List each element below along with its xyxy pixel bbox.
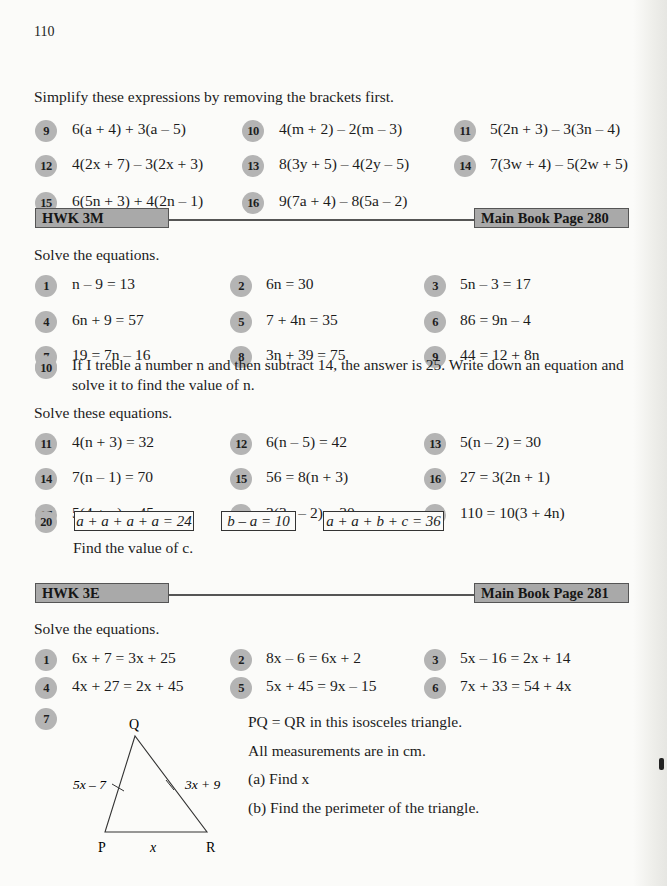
equation: 6n + 9 = 57 xyxy=(72,311,144,329)
question-number-badge: 3 xyxy=(424,649,446,671)
part-b: (b) Find the perimeter of the triangle. xyxy=(248,798,479,818)
question-number-badge: 5 xyxy=(230,311,252,333)
question-number-badge: 11 xyxy=(454,120,476,142)
triangle-description: PQ = QR in this isosceles triangle. xyxy=(248,712,462,732)
question-number-badge: 12 xyxy=(230,433,252,455)
section-title-hwk3m: HWK 3M xyxy=(35,208,169,228)
equation-box-2: b – a = 10 xyxy=(221,511,296,531)
solve-instruction: Solve the equations. xyxy=(34,246,159,264)
ink-smudge xyxy=(659,758,664,770)
question-number-badge: 15 xyxy=(230,468,252,490)
side-label-pr: x xyxy=(149,840,157,855)
question-number-badge: 12 xyxy=(35,155,57,177)
question-number-badge: 2 xyxy=(230,275,252,297)
part-a: (a) Find x xyxy=(248,769,309,789)
question-number-badge: 4 xyxy=(35,311,57,333)
question-number-badge: 20 xyxy=(35,511,57,533)
side-label-pq: 5x – 7 xyxy=(73,777,107,792)
vertex-label-p: P xyxy=(98,840,106,855)
equation: 4x + 27 = 2x + 45 xyxy=(72,677,183,695)
equation: 5x – 16 = 2x + 14 xyxy=(460,649,570,667)
side-label-qr: 3x + 9 xyxy=(184,777,221,792)
equation: 110 = 10(3 + 4n) xyxy=(460,504,565,522)
equation: 7x + 33 = 54 + 4x xyxy=(460,677,571,695)
isosceles-triangle-diagram: Q P R 5x – 7 3x + 9 x xyxy=(60,705,240,855)
question-number-badge: 14 xyxy=(35,468,57,490)
expression: 7(3w + 4) – 5(2w + 5) xyxy=(490,155,628,173)
question-number-badge: 3 xyxy=(424,275,446,297)
solve-instruction: Solve the equations. xyxy=(34,620,159,638)
equation: 27 = 3(2n + 1) xyxy=(460,468,550,486)
expression: 6(a + 4) + 3(a – 5) xyxy=(72,120,186,138)
question-number-badge: 6 xyxy=(424,677,446,699)
units-note: All measurements are in cm. xyxy=(248,741,426,761)
question-number-badge: 6 xyxy=(424,311,446,333)
expression: 8(3y + 5) – 4(2y – 5) xyxy=(279,155,409,173)
equation: 56 = 8(n + 3) xyxy=(266,468,348,486)
question-number-badge: 14 xyxy=(454,155,476,177)
equation: 86 = 9n – 4 xyxy=(460,311,531,329)
question-number-badge: 9 xyxy=(35,120,57,142)
question-number-badge: 7 xyxy=(35,708,57,730)
expression: 4(2x + 7) – 3(2x + 3) xyxy=(72,155,203,173)
question-number-badge: 1 xyxy=(35,649,57,671)
equation: 6(n – 5) = 42 xyxy=(266,433,347,451)
equation: 6n = 30 xyxy=(266,275,314,293)
equation: 5n – 3 = 17 xyxy=(460,275,531,293)
main-book-page-ref: Main Book Page 280 xyxy=(474,208,629,228)
equation: 4(n + 3) = 32 xyxy=(72,433,154,451)
equation: 5(n – 2) = 30 xyxy=(460,433,541,451)
question-number-badge: 4 xyxy=(35,677,57,699)
question-number-badge: 13 xyxy=(424,433,446,455)
page-edge-shadow xyxy=(633,0,667,886)
section-title-hwk3e: HWK 3E xyxy=(35,583,169,603)
question-number-badge: 10 xyxy=(242,120,264,142)
equation-box-1: a + a + a + a = 24 xyxy=(74,511,194,531)
expression: 5(2n + 3) – 3(3n – 4) xyxy=(490,120,620,138)
question-number-badge: 11 xyxy=(35,433,57,455)
question-number-badge: 1 xyxy=(35,275,57,297)
header-rule xyxy=(168,219,476,221)
question-number-badge: 2 xyxy=(230,649,252,671)
expression: 9(7a + 4) – 8(5a – 2) xyxy=(279,192,407,210)
question-number-badge: 16 xyxy=(242,192,264,214)
expression: 4(m + 2) – 2(m – 3) xyxy=(279,120,402,138)
solve-these-instruction: Solve these equations. xyxy=(34,404,172,422)
equation: 5x + 45 = 9x – 15 xyxy=(266,677,376,695)
question-number-badge: 10 xyxy=(35,357,57,379)
word-problem-line2: solve it to find the value of n. xyxy=(72,375,255,395)
equation: 7 + 4n = 35 xyxy=(266,311,338,329)
header-rule xyxy=(168,594,476,596)
simplify-instruction: Simplify these expressions by removing t… xyxy=(34,88,394,106)
equation: 8x – 6 = 6x + 2 xyxy=(266,649,361,667)
equation-box-3: a + a + b + c = 36 xyxy=(323,511,444,531)
vertex-label-q: Q xyxy=(129,717,139,732)
question-number-badge: 5 xyxy=(230,677,252,699)
word-problem-line1: If I treble a number n and then subtract… xyxy=(72,355,624,375)
page-number: 110 xyxy=(34,24,54,40)
vertex-label-r: R xyxy=(206,840,216,855)
main-book-page-ref: Main Book Page 281 xyxy=(474,583,629,603)
find-c-prompt: Find the value of c. xyxy=(73,538,193,558)
equation: 6x + 7 = 3x + 25 xyxy=(72,649,176,667)
equation: n – 9 = 13 xyxy=(72,275,135,293)
question-number-badge: 16 xyxy=(424,468,446,490)
question-number-badge: 13 xyxy=(242,155,264,177)
equation: 7(n – 1) = 70 xyxy=(72,468,153,486)
